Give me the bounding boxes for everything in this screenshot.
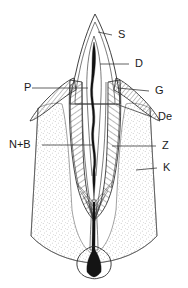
label-G: G (155, 84, 164, 96)
tooth-diagram: S D P G De N+B Z K (0, 0, 188, 288)
label-D: D (135, 57, 143, 69)
pulp-chamber-region (87, 36, 101, 200)
label-P: P (24, 81, 31, 93)
pulp-canal-dark (91, 42, 96, 200)
label-N-plus-B: N+B (9, 138, 31, 150)
label-De: De (158, 110, 172, 122)
label-K: K (163, 161, 171, 173)
label-Z: Z (162, 139, 169, 151)
tooth-cross-section-svg: S D P G De N+B Z K (0, 0, 188, 288)
label-S: S (118, 28, 125, 40)
